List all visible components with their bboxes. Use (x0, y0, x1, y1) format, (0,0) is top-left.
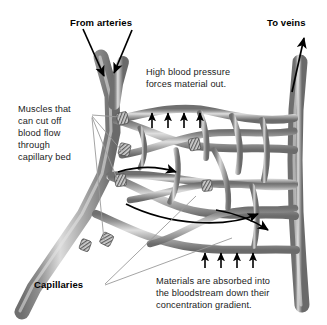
annotation-muscles-line4: through (18, 140, 50, 151)
annotation-high-pressure-line1: High blood pressure (146, 67, 230, 78)
filtration-out-arrows (152, 113, 200, 128)
capillary-bed-figure: From arteries To veins High blood pressu… (0, 0, 327, 325)
label-to-veins: To veins (267, 17, 306, 29)
annotation-absorbed-line3: concentration gradient. (156, 300, 252, 311)
artery-trunk (20, 57, 123, 312)
annotation-absorbed-line1: Materials are absorbed into (156, 276, 270, 287)
annotation-high-pressure-line2: forces material out. (146, 79, 226, 90)
annotation-muscles-line5: capillary bed (18, 152, 71, 163)
annotation-absorbed-line2: the bloodstream down their (156, 288, 269, 299)
annotation-muscles-line3: blood flow (18, 128, 60, 139)
absorption-in-arrows (205, 253, 253, 268)
label-from-arteries: From arteries (70, 17, 132, 29)
annotation-muscles-line2: can cut off (18, 116, 61, 127)
annotation-muscles-line1: Muscles that (18, 104, 71, 115)
label-capillaries: Capillaries (34, 279, 83, 291)
